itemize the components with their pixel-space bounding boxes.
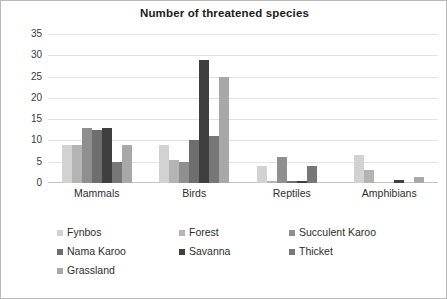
bar xyxy=(159,145,169,183)
bar xyxy=(189,140,199,183)
legend-row: FynbosForestSucculent Karoo xyxy=(57,223,437,242)
bar xyxy=(82,128,92,183)
legend-label: Nama Karoo xyxy=(67,246,126,257)
legend-label: Savanna xyxy=(189,246,230,257)
bar xyxy=(122,145,132,183)
legend-item[interactable]: Thicket xyxy=(289,246,429,257)
bar xyxy=(394,180,404,183)
legend-swatch-icon xyxy=(179,249,185,255)
bar xyxy=(287,181,297,183)
bar xyxy=(102,128,112,183)
legend-swatch-icon xyxy=(289,230,295,236)
chart-container: Number of threatened species 35302520151… xyxy=(0,0,447,299)
y-axis-tick-label: 10 xyxy=(1,135,42,145)
bar xyxy=(72,145,82,183)
legend-label: Fynbos xyxy=(67,227,101,238)
y-axis-tick-label: 35 xyxy=(1,29,42,39)
x-axis-tick-label: Birds xyxy=(182,187,206,199)
bar-series-layer xyxy=(48,34,438,183)
bar xyxy=(307,166,317,183)
legend-swatch-icon xyxy=(57,249,63,255)
legend-swatch-icon xyxy=(179,230,185,236)
bar xyxy=(199,60,209,183)
y-axis-tick-label: 25 xyxy=(1,72,42,82)
x-axis-tick-label: Amphibians xyxy=(362,187,417,199)
y-axis-tick-label: 5 xyxy=(1,157,42,167)
legend-item[interactable]: Fynbos xyxy=(57,227,179,238)
x-axis-tick-label: Reptiles xyxy=(273,187,311,199)
bar xyxy=(354,155,364,183)
bar xyxy=(297,181,307,183)
x-axis-tick-label: Mammals xyxy=(74,187,120,199)
legend-row: Nama KarooSavannaThicket xyxy=(57,242,437,261)
legend-label: Succulent Karoo xyxy=(299,227,376,238)
legend-item[interactable]: Grassland xyxy=(57,265,179,276)
bar xyxy=(169,160,179,183)
chart-title: Number of threatened species xyxy=(1,7,447,19)
legend-swatch-icon xyxy=(57,230,63,236)
y-axis-tick-label: 20 xyxy=(1,93,42,103)
y-axis-tick-label: 15 xyxy=(1,114,42,124)
legend-row: Grassland xyxy=(57,261,437,280)
x-axis: MammalsBirdsReptilesAmphibians xyxy=(48,187,438,207)
bar xyxy=(219,77,229,183)
bar xyxy=(257,166,267,183)
legend-label: Thicket xyxy=(299,246,333,257)
bar xyxy=(112,162,122,183)
bar xyxy=(209,136,219,183)
y-axis: 35302520151050 xyxy=(1,34,42,183)
bar-group xyxy=(159,34,229,183)
bar xyxy=(414,177,424,183)
bar xyxy=(267,181,277,183)
bar xyxy=(277,157,287,183)
legend-item[interactable]: Savanna xyxy=(179,246,289,257)
bar xyxy=(364,170,374,183)
y-axis-tick-label: 0 xyxy=(1,178,42,188)
bar-group xyxy=(257,34,327,183)
bar-group xyxy=(354,34,424,183)
legend-swatch-icon xyxy=(57,268,63,274)
legend-label: Grassland xyxy=(67,265,115,276)
bar xyxy=(179,162,189,183)
legend-item[interactable]: Nama Karoo xyxy=(57,246,179,257)
bar xyxy=(92,130,102,183)
plot-area xyxy=(48,34,438,183)
y-axis-tick-label: 30 xyxy=(1,50,42,60)
legend-item[interactable]: Succulent Karoo xyxy=(289,227,429,238)
chart-legend: FynbosForestSucculent KarooNama KarooSav… xyxy=(57,223,437,280)
legend-item[interactable]: Forest xyxy=(179,227,289,238)
bar-group xyxy=(62,34,132,183)
legend-label: Forest xyxy=(189,227,219,238)
bar xyxy=(62,145,72,183)
legend-swatch-icon xyxy=(289,249,295,255)
